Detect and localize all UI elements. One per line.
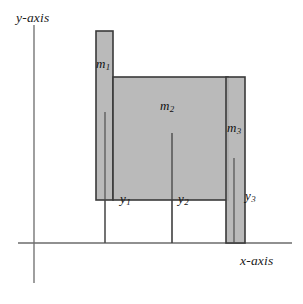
mass-label-m1-sub: 1 (106, 62, 110, 72)
centroid-label-y1-sub: 1 (126, 197, 130, 207)
mass-label-m1: m1 (96, 56, 110, 72)
centroid-label-y1-base: y (120, 191, 126, 206)
mass-label-m1-base: m (96, 56, 105, 71)
mass-label-m2-base: m (160, 98, 169, 113)
centroid-label-y1: y1 (120, 191, 131, 207)
mass-label-m2-sub: 2 (170, 104, 174, 114)
bar-m2 (113, 77, 228, 200)
centroid-label-y3-sub: 3 (251, 194, 255, 204)
x-axis-label: x-axis (240, 253, 273, 269)
bar-group (96, 31, 245, 243)
centroid-label-y2-base: y (178, 191, 184, 206)
mass-label-m3: m3 (227, 120, 241, 136)
mass-label-m3-base: m (227, 120, 236, 135)
centroid-label-y2: y2 (178, 191, 189, 207)
figure-canvas: y-axis x-axis m1 m2 m3 y1 y2 y3 (0, 0, 303, 304)
mass-label-m2: m2 (160, 98, 174, 114)
centroid-label-y2-sub: 2 (184, 197, 188, 207)
centroid-label-y3: y3 (245, 188, 256, 204)
y-axis-label: y-axis (16, 10, 49, 26)
mass-label-m3-sub: 3 (237, 126, 241, 136)
bar-m3 (226, 77, 245, 243)
centroid-label-y3-base: y (245, 188, 251, 203)
